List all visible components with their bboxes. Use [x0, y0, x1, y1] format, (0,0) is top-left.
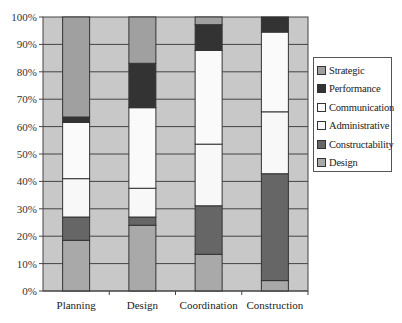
x-tick-label: Planning [57, 299, 97, 311]
bar-segment-design [129, 225, 156, 291]
bar-segment-communication [129, 108, 156, 189]
x-tick-label: Construction [246, 299, 303, 311]
x-tick-label: Design [127, 299, 159, 311]
bar-segment-strategic [63, 17, 90, 117]
legend-swatch-icon [317, 84, 326, 93]
legend-item-communication: Communication [317, 98, 391, 117]
y-tick-label: 80% [17, 66, 37, 78]
bar-segment-performance [195, 25, 222, 51]
bar-segment-performance [129, 63, 156, 107]
bar-segment-administrative [129, 188, 156, 217]
legend-swatch-icon [317, 103, 326, 112]
legend-item-design: Design [317, 154, 391, 173]
bar-segment-performance [261, 17, 288, 32]
legend-item-performance: Performance [317, 80, 391, 99]
legend-label: Performance [329, 83, 380, 94]
legend-label: Communication [329, 102, 394, 113]
bar-segment-administrative [195, 144, 222, 206]
y-tick-label: 20% [17, 230, 37, 242]
bar-segment-design [195, 254, 222, 291]
y-tick-label: 70% [17, 93, 37, 105]
legend-item-administrative: Administrative [317, 117, 391, 136]
legend-label: Constructability [329, 139, 393, 150]
y-axis: 0%10%20%30%40%50%60%70%80%90%100% [11, 11, 43, 297]
bar-design [129, 17, 156, 291]
bar-segment-performance [63, 117, 90, 122]
y-tick-label: 50% [17, 148, 37, 160]
bar-segment-communication [195, 50, 222, 144]
y-tick-label: 40% [17, 175, 37, 187]
bar-planning [63, 17, 90, 291]
legend-item-strategic: Strategic [317, 61, 391, 80]
bar-segment-strategic [129, 17, 156, 63]
y-tick-label: 90% [17, 38, 37, 50]
bar-segment-constructability [129, 217, 156, 225]
legend-swatch-icon [317, 121, 326, 130]
y-tick-label: 10% [17, 258, 37, 270]
bar-segment-strategic [195, 17, 222, 25]
bar-construction [261, 17, 288, 291]
bar-segment-communication [63, 122, 90, 178]
legend: Strategic Performance Communication Admi… [313, 57, 392, 172]
legend-label: Design [329, 157, 358, 168]
bar-segment-design [261, 281, 288, 291]
legend-swatch-icon [317, 66, 326, 75]
bar-coordination [195, 17, 222, 291]
bar-segment-constructability [261, 174, 288, 281]
legend-item-constructability: Constructability [317, 135, 391, 154]
x-tick-label: Coordination [180, 299, 239, 311]
y-tick-label: 30% [17, 203, 37, 215]
legend-label: Strategic [329, 65, 365, 76]
bar-segment-design [63, 240, 90, 291]
legend-swatch-icon [317, 158, 326, 167]
bar-segment-communication [261, 32, 288, 112]
legend-swatch-icon [317, 140, 326, 149]
bar-segment-constructability [195, 206, 222, 254]
bar-segment-constructability [63, 217, 90, 240]
legend-label: Administrative [329, 120, 389, 131]
x-axis: PlanningDesignCoordinationConstruction [43, 291, 308, 311]
y-tick-label: 60% [17, 121, 37, 133]
bar-segment-administrative [261, 112, 288, 174]
y-tick-label: 0% [22, 285, 37, 297]
y-tick-label: 100% [11, 11, 37, 23]
bar-segment-administrative [63, 179, 90, 217]
